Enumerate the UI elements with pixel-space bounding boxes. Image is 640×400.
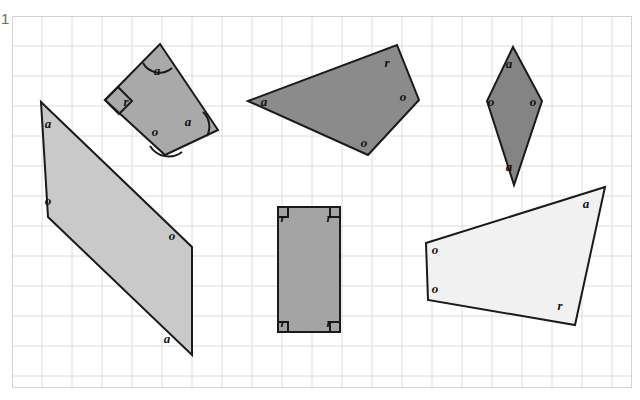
angle-type-label-a: a [45, 116, 52, 131]
angle-type-label-o: o [400, 89, 407, 104]
question-number-label: 1 [1, 11, 9, 26]
grid-canvas: aroaaooaarooaooarrrraoor [12, 16, 632, 388]
shape-quadrilateral-top-left: aroa [105, 44, 218, 156]
angle-type-label-a: a [185, 114, 192, 129]
angle-type-label-o: o [361, 135, 368, 150]
shapes-layer: aroaaooaarooaooarrrraoor [12, 16, 632, 388]
angle-type-label-o: o [530, 94, 537, 109]
shape-quadrilateral-top-middle: aroo [248, 45, 419, 155]
angle-type-label-o: o [169, 228, 176, 243]
shape-outline [426, 187, 605, 325]
angle-type-label-a: a [154, 63, 161, 78]
worksheet-page: 1 aroaaooaarooaooarrrraoor [0, 0, 640, 400]
shape-rectangle-bottom-middle: rrrr [278, 207, 340, 332]
angle-type-label-o: o [432, 281, 439, 296]
angle-type-label-o: o [152, 124, 159, 139]
shape-outline [278, 207, 340, 332]
angle-type-label-a: a [164, 331, 171, 346]
angle-type-label-a: a [506, 56, 513, 71]
angle-type-label-a: a [583, 196, 590, 211]
angle-type-label-o: o [432, 242, 439, 257]
shape-outline [105, 44, 218, 155]
angle-type-label-a: a [506, 159, 513, 174]
angle-type-label-o: o [45, 193, 52, 208]
angle-type-label-a: a [261, 94, 268, 109]
angle-type-label-o: o [488, 94, 495, 109]
shape-outline [248, 45, 419, 155]
shape-quadrilateral-bottom-right: aoor [426, 187, 605, 325]
shape-outline [487, 47, 542, 185]
shape-kite-top-right: aooa [487, 47, 542, 185]
